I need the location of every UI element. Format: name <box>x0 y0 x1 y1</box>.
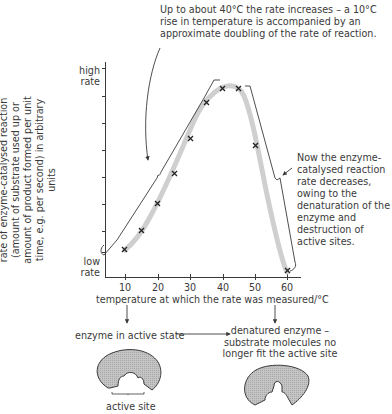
denatured-enzyme-shape <box>245 365 309 405</box>
axes <box>102 62 301 280</box>
rise-arrow <box>146 48 160 160</box>
fall-arrow <box>283 168 292 175</box>
rate-curve <box>125 86 287 272</box>
active-enzyme-shape <box>97 350 161 390</box>
active-site-bracket <box>112 392 144 395</box>
fall-brace <box>245 86 296 271</box>
